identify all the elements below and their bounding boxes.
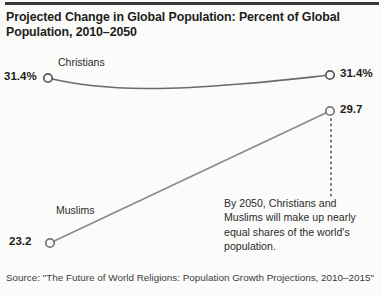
marker-muslims-start (46, 239, 54, 247)
series-label-muslims: Muslims (56, 204, 95, 216)
line-christians (48, 75, 330, 89)
data-label-muslims-2010: 23.2 (9, 235, 31, 247)
data-label-christians-2010: 31.4% (4, 70, 37, 82)
data-label-muslims-2050: 29.7 (340, 103, 362, 115)
marker-christians-start (44, 74, 52, 82)
marker-muslims-end (326, 107, 334, 115)
series-label-christians: Christians (58, 56, 105, 68)
data-label-christians-2050: 31.4% (340, 67, 373, 79)
chart-annotation: By 2050, Christians and Muslims will mak… (224, 196, 376, 254)
marker-christians-end (326, 71, 334, 79)
chart-figure: Projected Change in Global Population: P… (0, 0, 382, 296)
source-note: Source: "The Future of World Religions: … (6, 272, 378, 283)
